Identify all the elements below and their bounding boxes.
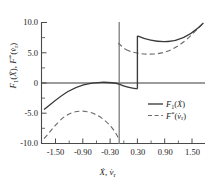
series-Fstar-left	[44, 111, 118, 138]
legend-label-Fstar: F*(v̇r)	[166, 111, 186, 122]
x-axis-label: Ẋ, v̇r	[0, 168, 215, 178]
x-tick-label-150: 1.50	[176, 148, 209, 157]
y-axis-label: F1(Ẋ), F*(v̇r)	[8, 16, 19, 116]
series-F1-left	[44, 82, 119, 109]
figure-container: 10.0 5.0 0 -5.0 -10.0 -1.50 -0.90 -0.30 …	[0, 0, 215, 186]
legend-swatches	[148, 104, 163, 116]
series-F1-dip	[119, 84, 137, 89]
legend-label-F1: F1(Ẋ)	[166, 100, 185, 110]
y-tick-label-neg10: -10.0	[5, 139, 38, 148]
chart-plot-area	[0, 0, 215, 186]
series-F1-right	[137, 23, 203, 42]
